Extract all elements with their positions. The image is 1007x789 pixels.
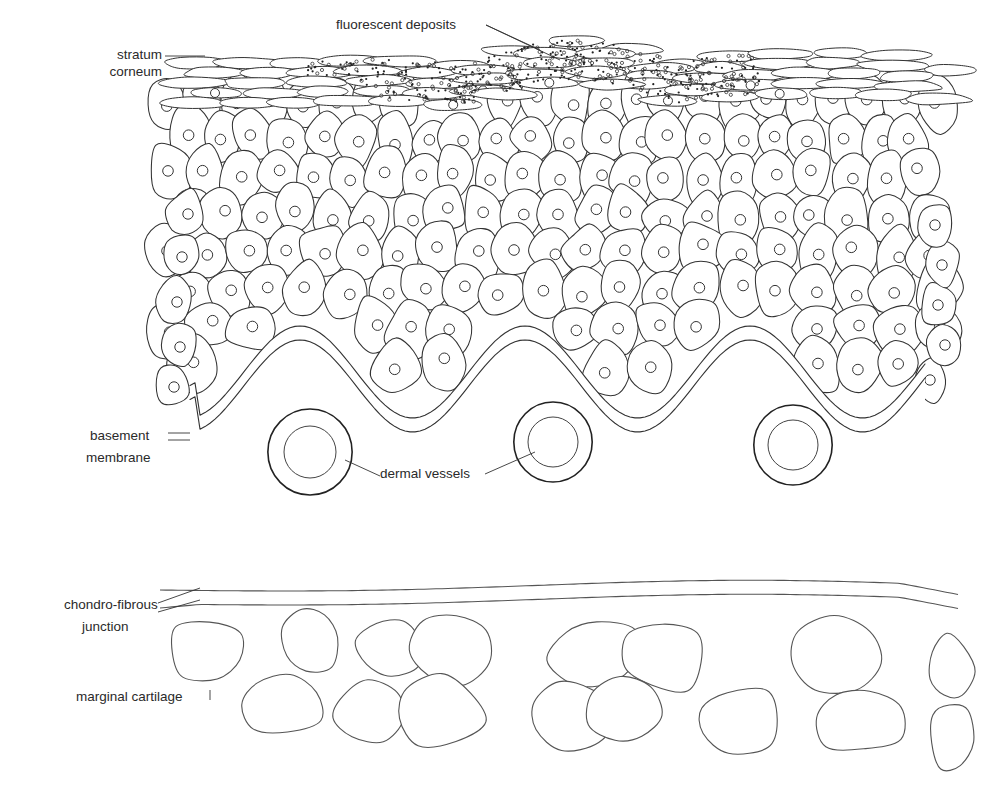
cell-nucleus xyxy=(889,288,900,299)
cartilage-lacuna xyxy=(931,705,974,771)
cell-nucleus xyxy=(698,239,709,250)
cartilage-lacunae xyxy=(171,609,975,771)
cell-nucleus xyxy=(698,175,709,186)
cell-nucleus xyxy=(731,172,742,183)
cell-nucleus xyxy=(658,247,669,258)
cell-nucleus xyxy=(460,281,471,292)
cell-nucleus xyxy=(893,359,904,370)
cell-nucleus xyxy=(408,215,419,226)
cell-nucleus xyxy=(571,325,582,336)
cell-nucleus xyxy=(613,323,624,334)
cell-nucleus xyxy=(392,251,403,262)
cell-nucleus xyxy=(577,291,588,302)
label-chondro-fibrous-1: chondro-fibrous xyxy=(64,596,158,613)
cell-nucleus xyxy=(812,324,823,335)
label-basement-membrane-1: basement xyxy=(90,427,149,444)
cartilage-lacuna xyxy=(791,615,882,693)
cell-nucleus xyxy=(517,168,528,179)
cell-nucleus xyxy=(328,215,339,226)
cell-nucleus xyxy=(736,249,747,260)
cell-nucleus xyxy=(274,165,285,176)
cell-nucleus xyxy=(903,133,914,144)
cell-nucleus xyxy=(447,168,458,179)
cell-nucleus xyxy=(738,280,749,291)
cell-nucleus xyxy=(580,244,591,255)
cell-nucleus xyxy=(568,100,579,111)
cell-nucleus xyxy=(812,287,823,298)
cartilage-lacuna xyxy=(399,674,486,748)
cartilage-lacuna xyxy=(281,609,338,673)
cartilage-lacuna xyxy=(242,674,323,733)
cell-nucleus xyxy=(620,245,631,256)
cartilage-lacuna xyxy=(171,622,243,681)
cell-nucleus xyxy=(774,244,785,255)
cell-nucleus xyxy=(894,252,905,263)
cartilage-lacuna xyxy=(699,688,777,754)
cell-nucleus xyxy=(458,135,469,146)
cell-nucleus xyxy=(443,203,454,214)
cell-nucleus xyxy=(806,165,817,176)
chondro-fibrous-junction xyxy=(160,580,958,608)
cell-nucleus xyxy=(550,249,561,260)
cell-nucleus xyxy=(406,321,417,332)
cell-nucleus xyxy=(662,130,673,141)
cartilage-lacuna xyxy=(333,680,404,743)
cell-nucleus xyxy=(320,131,331,142)
label-marginal-cartilage: marginal cartilage xyxy=(76,688,183,705)
cell-nucleus xyxy=(538,285,549,296)
cell-nucleus xyxy=(299,282,310,293)
cell-nucleus xyxy=(597,170,608,181)
cell-nucleus xyxy=(772,169,783,180)
cell-nucleus xyxy=(658,173,669,184)
cell-nucleus xyxy=(183,130,194,141)
cell-nucleus xyxy=(614,282,625,293)
cell-nucleus xyxy=(308,172,319,183)
cell-nucleus xyxy=(353,136,364,147)
cell-nucleus xyxy=(345,175,356,186)
cell-nucleus xyxy=(853,364,864,375)
label-chondro-fibrous-2: junction xyxy=(82,618,129,635)
label-fluorescent-deposits: fluorescent deposits xyxy=(336,16,456,33)
label-stratum-corneum-1: stratum xyxy=(88,46,162,63)
cell-nucleus xyxy=(226,285,237,296)
cell-nucleus xyxy=(492,290,503,301)
cell-nucleus xyxy=(769,131,780,142)
cell-nucleus xyxy=(878,136,889,147)
cell-nucleus xyxy=(591,204,602,215)
cell-nucleus xyxy=(491,133,502,144)
cell-nucleus xyxy=(345,289,356,300)
cell-nucleus xyxy=(702,211,713,222)
cell-nucleus xyxy=(244,245,255,256)
cell-nucleus xyxy=(912,163,923,174)
cell-nucleus xyxy=(372,320,383,331)
cell-nucleus xyxy=(700,133,711,144)
cell-nucleus xyxy=(197,165,208,176)
cell-nucleus xyxy=(247,321,258,332)
cell-nucleus xyxy=(358,245,369,256)
cell-nucleus xyxy=(655,320,666,331)
cell-nucleus xyxy=(620,207,631,218)
cell-nucleus xyxy=(854,320,865,331)
cell-nucleus xyxy=(735,215,746,226)
cell-nucleus xyxy=(416,170,427,181)
cell-nucleus xyxy=(220,205,231,216)
cell-nucleus xyxy=(555,174,566,185)
cartilage-lacuna xyxy=(816,690,905,750)
cell-nucleus xyxy=(525,131,536,142)
cell-nucleus xyxy=(599,368,610,379)
cell-nucleus xyxy=(320,249,331,260)
cell-nucleus xyxy=(478,207,489,218)
cell-nucleus xyxy=(444,324,455,335)
cell-nucleus xyxy=(485,175,496,186)
cell-nucleus xyxy=(601,132,612,143)
cell-nucleus xyxy=(851,290,862,301)
cell-nucleus xyxy=(379,167,390,178)
cell-nucleus xyxy=(694,282,705,293)
cell-nucleus xyxy=(389,364,400,375)
cell-nucleus xyxy=(657,288,668,299)
cell-nucleus xyxy=(564,138,575,149)
cell-nucleus xyxy=(601,98,612,109)
skin-cross-section-diagram xyxy=(0,0,1007,789)
cell-nucleus xyxy=(207,315,218,326)
cell-nucleus xyxy=(770,285,781,296)
